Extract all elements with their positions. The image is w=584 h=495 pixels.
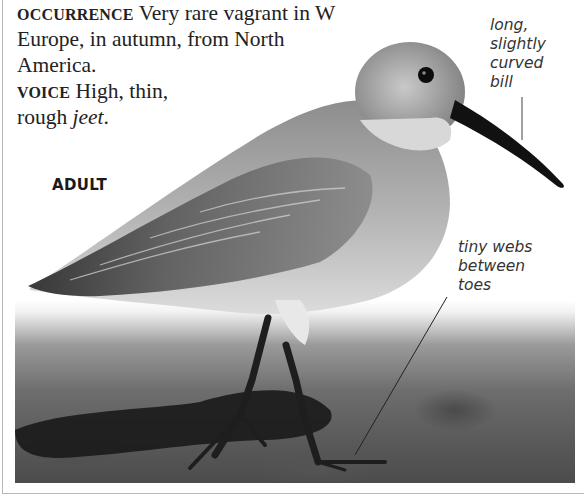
species-description: Occurrence Very rare vagrant in W Europe… (17, 0, 347, 130)
bird-bill (450, 100, 564, 188)
annotation-toes: tiny webs between toes (458, 238, 578, 295)
annotation-line: toes (458, 276, 578, 295)
voice-paragraph: Voice High, thin, rough jeet. (17, 78, 217, 130)
annotation-line: long, (490, 16, 580, 35)
annotation-line: curved (490, 54, 580, 73)
occurrence-paragraph: Occurrence Very rare vagrant in W Europe… (17, 0, 347, 78)
annotation-line: tiny webs (458, 238, 578, 257)
voice-call: jeet (73, 105, 104, 129)
voice-end: . (104, 105, 109, 129)
annotation-line: between (458, 257, 578, 276)
bird-eye (418, 67, 434, 83)
annotation-line: slightly (490, 35, 580, 54)
annotation-line: bill (490, 73, 580, 92)
legs (190, 318, 385, 470)
annotation-bill: long, slightly curved bill (490, 16, 580, 92)
occurrence-heading: Occurrence (17, 0, 134, 25)
voice-heading: Voice (17, 78, 70, 103)
age-label: ADULT (52, 176, 107, 194)
